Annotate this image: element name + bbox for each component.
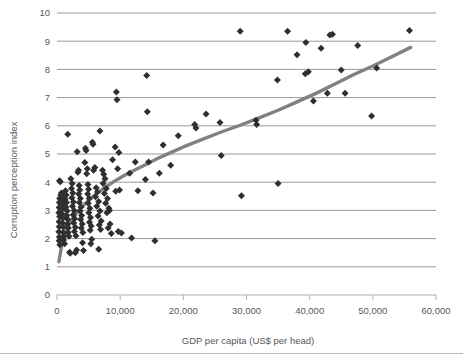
data-point	[83, 170, 90, 177]
data-point	[216, 119, 223, 126]
y-tick-label-3: 3	[45, 205, 50, 216]
x-tick-label-30000: 30,000	[232, 305, 261, 316]
data-point	[338, 66, 345, 73]
y-tick-label-9: 9	[45, 36, 50, 47]
trend-line	[59, 47, 411, 261]
y-tick-label-4: 4	[45, 177, 50, 188]
scatter-plot: 012345678910 010,00020,00030,00040,00050…	[0, 0, 463, 358]
y-axis-title: Corruption perception index	[8, 121, 19, 238]
data-point	[81, 159, 88, 166]
data-point	[80, 247, 87, 254]
data-point	[113, 88, 120, 95]
data-point	[310, 97, 317, 104]
data-point	[302, 39, 309, 46]
data-points	[55, 27, 413, 257]
y-tick-label-7: 7	[45, 92, 50, 103]
y-tick-label-1: 1	[45, 261, 50, 272]
x-axis-title: GDP per capita (US$ per head)	[182, 335, 314, 346]
x-tick-labels: 010,00020,00030,00040,00050,00060,000	[54, 305, 450, 316]
gridlines	[57, 13, 436, 295]
data-point	[109, 156, 116, 163]
data-point	[237, 28, 244, 35]
data-point	[218, 152, 225, 159]
data-point	[175, 132, 182, 139]
data-point	[132, 158, 139, 165]
data-point	[150, 189, 157, 196]
data-point	[294, 51, 301, 58]
data-point	[67, 175, 74, 182]
y-tick-label-8: 8	[45, 64, 50, 75]
data-point	[275, 180, 282, 187]
data-point	[112, 143, 119, 150]
chart-figure: 012345678910 010,00020,00030,00040,00050…	[0, 0, 463, 358]
y-tick-label-10: 10	[39, 7, 50, 18]
x-tick-label-40000: 40,000	[295, 305, 324, 316]
data-point	[324, 90, 331, 97]
data-point	[406, 27, 413, 34]
x-tick-label-60000: 60,000	[421, 305, 450, 316]
data-point	[134, 187, 141, 194]
data-point	[143, 72, 150, 79]
y-tick-label-0: 0	[45, 289, 50, 300]
y-tick-label-2: 2	[45, 233, 50, 244]
y-tick-label-5: 5	[45, 148, 50, 159]
data-point	[203, 110, 210, 117]
data-point	[87, 240, 94, 247]
x-tick-label-20000: 20,000	[169, 305, 198, 316]
data-point	[96, 127, 103, 134]
data-point	[95, 246, 102, 253]
data-point	[108, 230, 115, 237]
data-point	[144, 108, 151, 115]
data-point	[64, 131, 71, 138]
y-tick-label-6: 6	[45, 120, 50, 131]
data-point	[253, 121, 260, 128]
data-point	[115, 149, 122, 156]
y-tick-labels: 012345678910	[39, 7, 50, 300]
data-point	[318, 45, 325, 52]
data-point	[114, 165, 121, 172]
data-point	[156, 170, 163, 177]
data-point	[342, 90, 349, 97]
data-point	[128, 235, 135, 242]
data-point	[238, 192, 245, 199]
data-point	[284, 28, 291, 35]
data-point	[160, 141, 167, 148]
data-point	[274, 77, 281, 84]
x-tick-label-50000: 50,000	[358, 305, 387, 316]
x-tick-label-0: 0	[54, 305, 59, 316]
x-tick-marks	[57, 295, 436, 300]
x-tick-label-10000: 10,000	[106, 305, 135, 316]
data-point	[79, 239, 86, 246]
data-point	[368, 112, 375, 119]
data-point	[167, 162, 174, 169]
data-point	[354, 42, 361, 49]
